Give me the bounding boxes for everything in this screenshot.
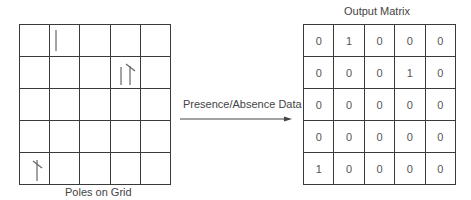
grid-cell: [140, 89, 170, 121]
matrix-cell: 0: [334, 153, 364, 185]
matrix-cell: 0: [395, 121, 425, 153]
grid-row: [20, 89, 171, 121]
grid-cell: [80, 89, 110, 121]
grid-cell: [50, 121, 80, 153]
grid-cell: [80, 25, 110, 57]
grid-cell: [110, 25, 140, 57]
matrix-cell: 0: [334, 121, 364, 153]
poles-grid: [19, 24, 171, 185]
matrix-cell: 0: [364, 153, 394, 185]
matrix-row: 0 1 0 0 0: [304, 25, 456, 57]
output-matrix: 0 1 0 0 0 0 0 0 1 0 0 0 0 0 0 0 0 0 0 0: [303, 24, 456, 185]
matrix-cell: 0: [334, 89, 364, 121]
matrix-cell: 0: [425, 153, 455, 185]
grid-cell: [20, 57, 50, 89]
grid-row: [20, 57, 171, 89]
matrix-cell: 0: [364, 121, 394, 153]
grid-cell: [110, 57, 140, 89]
grid-row: [20, 121, 171, 153]
grid-cell: [80, 57, 110, 89]
grid-cell: [20, 89, 50, 121]
matrix-cell: 0: [334, 57, 364, 89]
matrix-cell: 0: [425, 57, 455, 89]
right-arrow-icon: [180, 116, 292, 122]
matrix-cell: 0: [304, 121, 334, 153]
matrix-cell: 0: [364, 57, 394, 89]
grid-cell: [20, 121, 50, 153]
matrix-cell: 1: [395, 57, 425, 89]
matrix-row: 0 0 0 0 0: [304, 121, 456, 153]
single-pole-icon: [53, 29, 63, 53]
grid-cell: [50, 89, 80, 121]
output-matrix-title: Output Matrix: [344, 5, 410, 17]
matrix-cell: 0: [304, 57, 334, 89]
matrix-cell: 0: [304, 89, 334, 121]
matrix-cell: 0: [304, 25, 334, 57]
matrix-cell: 0: [395, 25, 425, 57]
grid-cell: [110, 153, 140, 185]
grid-cell: [20, 153, 50, 185]
grid-cell: [110, 89, 140, 121]
double-pole-icon: [119, 63, 139, 87]
matrix-cell: 0: [364, 89, 394, 121]
matrix-row: 1 0 0 0 0: [304, 153, 456, 185]
grid-cell: [50, 153, 80, 185]
matrix-cell: 1: [304, 153, 334, 185]
arrow-label: Presence/Absence Data: [183, 98, 302, 110]
matrix-cell: 0: [364, 25, 394, 57]
grid-cell: [140, 25, 170, 57]
matrix-cell: 0: [425, 89, 455, 121]
grid-row: [20, 25, 171, 57]
grid-cell: [50, 57, 80, 89]
grid-cell: [80, 121, 110, 153]
matrix-row: 0 0 0 0 0: [304, 89, 456, 121]
matrix-cell: 0: [395, 153, 425, 185]
matrix-cell: 1: [334, 25, 364, 57]
grid-cell: [110, 121, 140, 153]
matrix-row: 0 0 0 1 0: [304, 57, 456, 89]
matrix-cell: 0: [425, 121, 455, 153]
grid-cell: [140, 121, 170, 153]
grid-row: [20, 153, 171, 185]
crossarm-pole-icon: [32, 157, 48, 183]
grid-cell: [50, 25, 80, 57]
grid-cell: [140, 57, 170, 89]
grid-cell: [20, 25, 50, 57]
poles-grid-caption: Poles on Grid: [65, 186, 132, 198]
grid-cell: [140, 153, 170, 185]
grid-cell: [80, 153, 110, 185]
matrix-cell: 0: [395, 89, 425, 121]
matrix-cell: 0: [425, 25, 455, 57]
